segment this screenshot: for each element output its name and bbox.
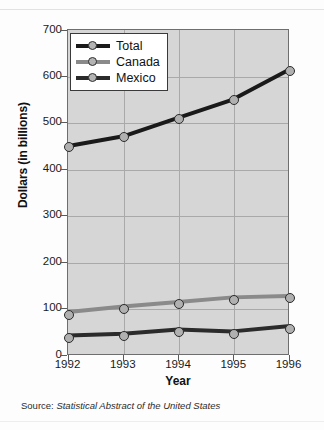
y-tick-mark [60, 215, 67, 216]
legend-item-mexico: Mexico [76, 70, 160, 86]
y-tick-mark [60, 355, 67, 356]
legend-item-total: Total [76, 38, 160, 54]
chart-figure: Dollars (in billions) Year 0100200300400… [0, 0, 324, 430]
data-point-marker [64, 310, 74, 320]
data-point-marker [119, 304, 129, 314]
legend-label: Total [116, 40, 142, 53]
x-tick-mark [233, 355, 234, 361]
legend-label: Mexico [116, 72, 156, 85]
top-divider [0, 9, 324, 10]
x-tick-mark [178, 355, 179, 361]
y-tick-mark [60, 76, 67, 77]
x-tick-mark [289, 355, 290, 361]
legend-swatch-icon [76, 55, 110, 69]
y-tick-mark [60, 262, 67, 263]
legend-marker-icon [88, 57, 97, 66]
bottom-divider [0, 421, 324, 422]
legend-item-canada: Canada [76, 54, 160, 70]
source-note: Source: Statistical Abstract of the Unit… [21, 400, 220, 411]
source-prefix: Source: [21, 400, 54, 411]
data-point-marker [229, 295, 239, 305]
data-point-marker [174, 114, 184, 124]
legend-marker-icon [88, 41, 97, 50]
legend-label: Canada [116, 56, 160, 69]
data-point-marker [119, 132, 129, 142]
x-tick-mark [68, 355, 69, 361]
chart-legend: TotalCanadaMexico [70, 33, 168, 91]
data-point-marker [285, 293, 295, 303]
y-axis-title: Dollars (in billions) [16, 95, 30, 215]
y-tick-mark [60, 30, 67, 31]
x-tick-mark [123, 355, 124, 361]
data-point-marker [285, 66, 295, 76]
y-tick-mark [60, 308, 67, 309]
legend-marker-icon [88, 73, 97, 82]
y-tick-mark [60, 122, 67, 123]
x-axis-title: Year [67, 374, 289, 388]
legend-swatch-icon [76, 39, 110, 53]
data-point-marker [285, 324, 295, 334]
source-title: Statistical Abstract of the United State… [56, 400, 220, 411]
data-point-marker [64, 142, 74, 152]
data-point-marker [64, 333, 74, 343]
legend-swatch-icon [76, 71, 110, 85]
y-tick-mark [60, 169, 67, 170]
